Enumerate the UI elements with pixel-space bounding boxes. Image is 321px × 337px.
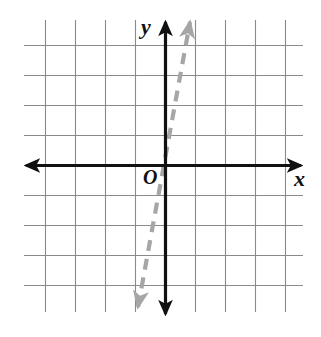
x-axis-label: x (294, 168, 305, 190)
coordinate-plane-figure: y x O (0, 0, 321, 337)
y-axis-label: y (141, 16, 151, 38)
origin-label: O (143, 167, 157, 187)
coordinate-plane-svg (0, 0, 321, 337)
